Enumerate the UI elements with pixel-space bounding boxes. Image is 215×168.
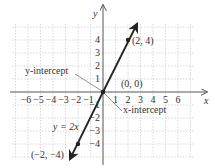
x-tick: −2 [71,94,82,105]
x-tick: 1 [113,94,118,105]
point-neg2-neg4-label: (−2, −4) [31,149,64,161]
y-tick: −3 [89,125,100,136]
x-tick: 6 [176,94,181,105]
y-tick: 2 [95,60,100,71]
x-tick: −6 [21,94,32,105]
x-tick: −3 [58,94,69,105]
point-2-4 [126,38,130,42]
y-axis-label: y [92,8,98,19]
y-tick: 1 [95,73,100,84]
y-tick: 3 [95,47,100,58]
x-intercept-label: x-intercept [123,104,167,115]
y-tick: −2 [89,112,100,123]
point-neg2-neg4 [76,142,80,146]
point-2-4-label: (2, 4) [132,35,154,47]
graph-canvas: −6 −5 −4 −3 −2 −1 1 2 3 4 5 6 4 3 2 1 −1… [0,0,215,168]
x-tick: −4 [46,94,57,105]
y-tick: −1 [89,99,100,110]
y-tick: 4 [95,34,100,45]
x-tick: −5 [33,94,44,105]
y-intercept-label: y-intercept [25,65,69,76]
y-tick: −4 [89,138,100,149]
equation-label: y = 2x [52,121,79,132]
point-origin [101,90,105,94]
origin-label: (0, 0) [121,78,143,90]
x-axis-label: x [203,95,209,106]
